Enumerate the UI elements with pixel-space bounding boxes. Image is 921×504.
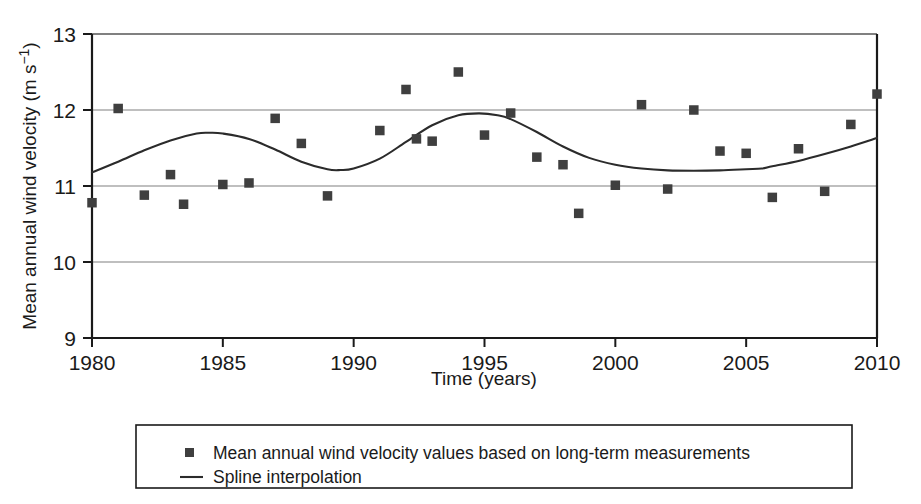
legend-square-marker-icon [185, 448, 194, 457]
legend-label-measurements: Mean annual wind velocity values based o… [213, 443, 750, 463]
x-axis-title: Time (years) [431, 368, 537, 389]
chart-figure: 910111213 1980198519901995200020052010 M… [0, 0, 921, 504]
data-point-1998.6 [574, 209, 584, 219]
data-point-2006 [768, 193, 778, 203]
data-point-2009 [846, 120, 856, 130]
data-point-1980 [87, 198, 97, 208]
y-tick-label-13: 13 [53, 23, 76, 46]
y-axis-title: Mean annual wind velocity (m s−1) [16, 42, 40, 329]
x-tick-label-2005: 2005 [723, 351, 770, 374]
data-point-1991 [375, 126, 385, 135]
data-point-1997 [532, 152, 542, 162]
data-point-1988 [297, 139, 307, 149]
data-point-1983.5 [179, 199, 189, 209]
data-point-1995 [480, 130, 490, 140]
y-tick-label-10: 10 [53, 251, 76, 274]
data-point-1987 [270, 114, 280, 124]
y-axis-title-tail: ) [19, 42, 40, 48]
y-axis-title-exponent: −1 [16, 48, 32, 64]
data-point-1983 [166, 170, 176, 180]
chart-svg: 910111213 1980198519901995200020052010 M… [0, 0, 921, 504]
x-tick-label-1985: 1985 [199, 351, 246, 374]
y-tick-label-12: 12 [53, 99, 76, 122]
data-point-2003 [689, 105, 699, 115]
y-axis-title-base: Mean annual wind velocity (m s [19, 65, 40, 330]
data-point-1996 [506, 108, 516, 118]
data-point-1993 [427, 136, 437, 146]
data-point-2000 [611, 180, 621, 190]
data-point-1981 [113, 104, 123, 114]
y-tick-label-11: 11 [54, 175, 76, 198]
data-point-1992 [401, 85, 411, 95]
svg-text:Mean annual wind velocity (m s: Mean annual wind velocity (m s−1) [16, 42, 40, 329]
data-point-2005 [741, 149, 751, 159]
data-point-2010 [872, 89, 882, 99]
data-point-1989 [323, 191, 333, 201]
y-tick-label-9: 9 [64, 327, 76, 350]
data-point-1982 [140, 190, 150, 200]
chart-canvas: 910111213 1980198519901995200020052010 M… [0, 0, 921, 504]
data-point-1998 [558, 160, 568, 170]
data-point-2007 [794, 144, 804, 154]
data-point-1986 [244, 178, 254, 188]
data-point-2002 [663, 184, 673, 194]
data-point-2008 [820, 187, 830, 197]
legend-label-spline: Spline interpolation [213, 467, 362, 487]
x-tick-label-1990: 1990 [330, 351, 377, 374]
data-point-2004 [715, 146, 725, 156]
x-tick-label-1980: 1980 [69, 351, 116, 374]
data-point-1985 [218, 180, 228, 190]
data-point-1992.4 [412, 134, 422, 144]
x-tick-label-2010: 2010 [854, 351, 901, 374]
data-point-1994 [454, 67, 464, 77]
x-tick-label-2000: 2000 [592, 351, 639, 374]
data-point-2001 [637, 100, 647, 110]
